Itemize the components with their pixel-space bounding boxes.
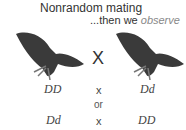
cross-x-1: x — [96, 84, 102, 96]
genotype-right-2: DD — [138, 113, 155, 128]
cross-x-2: x — [96, 115, 102, 127]
cross-symbol: X — [92, 48, 104, 69]
genotype-left-2: Dd — [46, 113, 61, 128]
diagram-subtitle: ...then we observe — [90, 14, 180, 26]
subtitle-emphasis: observe — [141, 14, 180, 26]
moth-icon — [112, 28, 186, 80]
diagram-title: Nonrandom mating — [40, 1, 142, 15]
or-label: or — [94, 99, 103, 110]
genotype-left-1: DD — [44, 82, 61, 97]
moth-icon — [12, 28, 88, 80]
genotype-right-1: Dd — [140, 82, 155, 97]
subtitle-prefix: ...then we — [90, 14, 141, 26]
